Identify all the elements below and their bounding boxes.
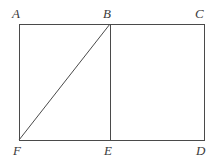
geometry-figure: A B C D E F [0, 0, 224, 168]
segment-FB-diagonal [19, 24, 110, 140]
rectangle-ACDF [19, 24, 204, 140]
vertex-label-a: A [12, 7, 20, 20]
vertex-label-c: C [195, 7, 204, 20]
vertex-label-b: B [103, 7, 111, 20]
geometry-canvas [0, 0, 224, 168]
vertex-label-e: E [104, 144, 112, 157]
vertex-label-f: F [13, 144, 21, 157]
vertex-label-d: D [196, 144, 205, 157]
